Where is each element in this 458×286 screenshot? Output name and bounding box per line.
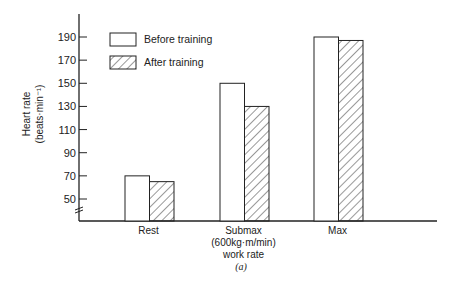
- legend-swatch-after: [110, 56, 136, 69]
- bar-max-after: [339, 40, 364, 221]
- legend: Before trainingAfter training: [110, 33, 212, 69]
- y-axis-title: Heart rate(beats·min⁻¹): [21, 85, 45, 144]
- legend-swatch-before: [110, 33, 136, 46]
- bar-max-before: [314, 37, 339, 221]
- bar-submax-after: [245, 106, 270, 221]
- y-tick-label: 170: [58, 54, 76, 66]
- x-category-label: Max: [328, 225, 347, 236]
- y-tick-label: 90: [64, 147, 76, 159]
- y-tick-label: 130: [58, 100, 76, 112]
- y-tick-label: 150: [58, 77, 76, 89]
- x-category-label: Rest: [138, 225, 159, 236]
- svg-text:Heart rate(beats·min⁻¹): Heart rate(beats·min⁻¹): [21, 85, 45, 144]
- y-tick-label: 70: [64, 170, 76, 182]
- legend-label: Before training: [144, 33, 212, 45]
- x-category-sublabel: (600kg·m/min): [211, 237, 275, 248]
- x-category-sublabel: work rate: [222, 249, 265, 260]
- x-axis-labels: RestSubmax(600kg·m/min)work rateMax: [138, 225, 347, 260]
- y-axis-ticks: 507090110130150170190: [58, 31, 87, 205]
- y-tick-label: 50: [64, 193, 76, 205]
- bar-submax-before: [220, 83, 245, 221]
- y-tick-label: 190: [58, 31, 76, 43]
- figure-caption: (a): [235, 261, 247, 273]
- x-category-label: Submax: [225, 225, 262, 236]
- bar-chart: 507090110130150170190 RestSubmax(600kg·m…: [0, 0, 458, 286]
- legend-label: After training: [144, 56, 204, 68]
- y-tick-label: 110: [58, 124, 76, 136]
- bar-rest-before: [125, 176, 150, 221]
- bar-rest-after: [150, 182, 175, 221]
